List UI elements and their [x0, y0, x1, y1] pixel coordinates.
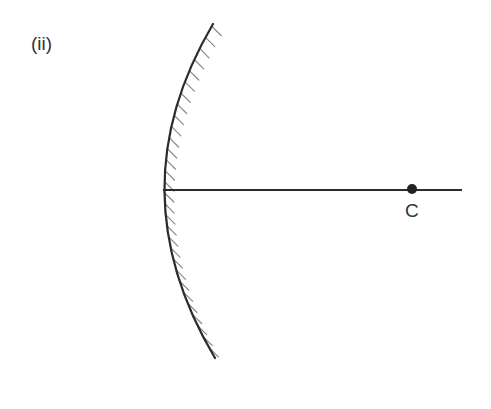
centre-of-curvature-point: [407, 184, 417, 194]
hatch-mark: [206, 37, 215, 46]
mirror-back-hatching: [165, 26, 222, 357]
hatch-mark: [171, 126, 180, 135]
hatch-mark: [165, 171, 174, 180]
hatch-mark: [200, 48, 209, 57]
mirror-diagram: (ii) C: [0, 0, 491, 409]
hatch-mark: [165, 193, 174, 202]
hatch-mark: [185, 82, 194, 91]
centre-of-curvature-label: C: [405, 200, 419, 221]
part-label: (ii): [31, 33, 52, 54]
concave-mirror: [164, 24, 215, 358]
hatch-mark: [189, 71, 198, 80]
hatch-mark: [212, 26, 221, 35]
hatch-mark: [169, 138, 178, 147]
hatch-mark: [174, 115, 183, 124]
hatch-mark: [166, 160, 175, 169]
hatch-mark: [177, 104, 186, 113]
hatch-mark: [194, 60, 203, 69]
hatch-mark: [167, 149, 176, 158]
hatch-mark: [181, 93, 190, 102]
